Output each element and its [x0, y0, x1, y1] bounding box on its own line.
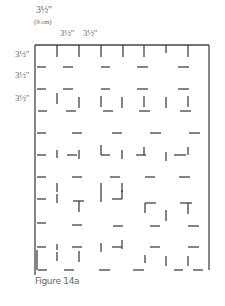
grid-diagram — [0, 0, 225, 306]
pattern-segments — [37, 45, 203, 270]
figure-caption: Figure 14a — [35, 276, 79, 286]
